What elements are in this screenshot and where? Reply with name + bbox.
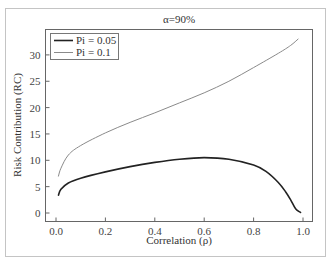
- y-tick-label: 5: [35, 181, 41, 193]
- chart-title: α=90%: [163, 13, 195, 25]
- y-axis-title: Risk Contribution (RC): [11, 73, 24, 177]
- y-tick-label: 15: [30, 128, 42, 140]
- y-tick-label: 20: [30, 102, 42, 114]
- y-tick-label: 10: [30, 154, 42, 166]
- y-tick-label: 25: [30, 75, 42, 87]
- x-tick-label: 1.0: [296, 225, 310, 237]
- x-axis-title: Correlation (ρ): [146, 234, 212, 247]
- x-tick-label: 0.8: [247, 225, 261, 237]
- legend: Pi = 0.05 Pi = 0.1: [51, 34, 119, 60]
- y-tick-label: 30: [30, 49, 42, 61]
- y-tick-label: 0: [35, 207, 41, 219]
- x-tick-label: 0.0: [49, 225, 63, 237]
- x-tick-label: 0.2: [99, 225, 113, 237]
- legend-label-pi-005: Pi = 0.05: [76, 34, 117, 46]
- chart-figure: α=90% 051015202530 0.00.20.40.60.81.0 Co…: [0, 0, 334, 261]
- legend-label-pi-01: Pi = 0.1: [76, 46, 111, 58]
